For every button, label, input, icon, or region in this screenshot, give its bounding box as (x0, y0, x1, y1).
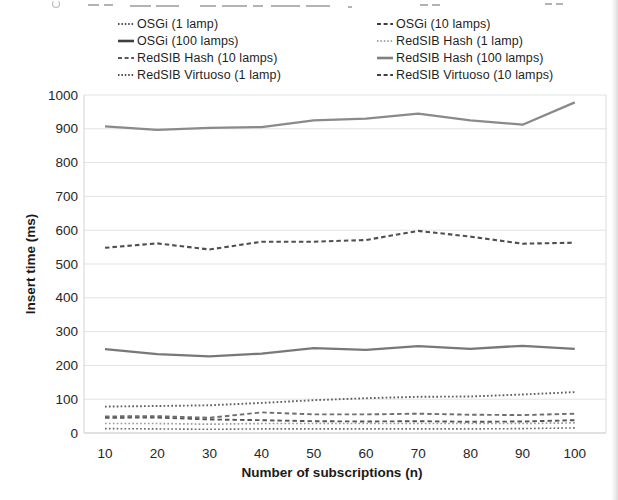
legend-label: OSGi (10 lamps) (396, 17, 491, 31)
x-tick-label: 20 (150, 446, 165, 461)
legend-label: RedSIB Hash (10 lamps) (137, 51, 277, 65)
y-tick-label: 100 (55, 392, 78, 407)
y-tick-label: 1000 (48, 88, 78, 103)
scan-edge-artifact (611, 0, 618, 500)
y-tick-label: 0 (70, 426, 78, 441)
x-tick-label: 80 (463, 446, 478, 461)
legend-item: RedSIB Hash (1 lamp) (377, 32, 553, 49)
x-tick-label: 40 (254, 446, 269, 461)
legend-dotted-line-swatch (118, 72, 135, 78)
legend-dashed-line-swatch (377, 72, 394, 78)
legend-label: RedSIB Virtuoso (10 lamps) (396, 68, 553, 82)
x-tick-label: 100 (564, 446, 587, 461)
series-line (105, 102, 575, 129)
legend-item: RedSIB Hash (100 lamps) (377, 49, 553, 66)
legend-dotted-line-swatch (118, 21, 135, 27)
series-line (105, 423, 575, 424)
legend-label: RedSIB Hash (100 lamps) (396, 51, 544, 65)
legend-dashed-line-swatch (118, 55, 135, 61)
legend-label: OSGi (100 lamps) (137, 34, 239, 48)
y-tick-label: 500 (55, 257, 78, 272)
chart-legend: OSGi (1 lamp)OSGi (10 lamps)OSGi (100 la… (118, 15, 553, 83)
y-axis-title: Insert time (ms) (23, 214, 38, 315)
legend-label: OSGi (1 lamp) (137, 17, 218, 31)
legend-solid-line-swatch (118, 38, 135, 44)
x-tick-label: 10 (97, 446, 112, 461)
legend-item: RedSIB Virtuoso (1 lamp) (118, 66, 377, 83)
legend-solid-line-swatch (377, 55, 394, 61)
series-line (105, 231, 575, 250)
legend-item: OSGi (1 lamp) (118, 15, 377, 32)
series-line (105, 418, 575, 422)
series-line (105, 428, 575, 429)
x-tick-label: 50 (306, 446, 321, 461)
y-tick-label: 400 (55, 290, 78, 305)
x-tick-label: 90 (515, 446, 530, 461)
x-tick-label: 30 (202, 446, 217, 461)
legend-item: OSGi (10 lamps) (377, 15, 553, 32)
legend-item: RedSIB Virtuoso (10 lamps) (377, 66, 553, 83)
legend-dashed-line-swatch (377, 21, 394, 27)
y-tick-label: 300 (55, 324, 78, 339)
legend-item: RedSIB Hash (10 lamps) (118, 49, 377, 66)
x-axis-title: Number of subscriptions (n) (242, 465, 423, 480)
legend-label: RedSIB Hash (1 lamp) (396, 34, 523, 48)
legend-label: RedSIB Virtuoso (1 lamp) (137, 68, 281, 82)
y-tick-label: 800 (55, 155, 78, 170)
x-tick-label: 60 (358, 446, 373, 461)
caption-fragment-glyph (52, 0, 60, 8)
y-tick-label: 200 (55, 358, 78, 373)
y-tick-label: 600 (55, 223, 78, 238)
y-tick-label: 900 (55, 121, 78, 136)
y-tick-label: 700 (55, 189, 78, 204)
figure: OSGi (1 lamp)OSGi (10 lamps)OSGi (100 la… (0, 0, 618, 500)
legend-item: OSGi (100 lamps) (118, 32, 377, 49)
series-line (105, 412, 575, 417)
series-line (105, 346, 575, 357)
legend-dotted-line-swatch (377, 38, 394, 44)
x-tick-label: 70 (411, 446, 426, 461)
